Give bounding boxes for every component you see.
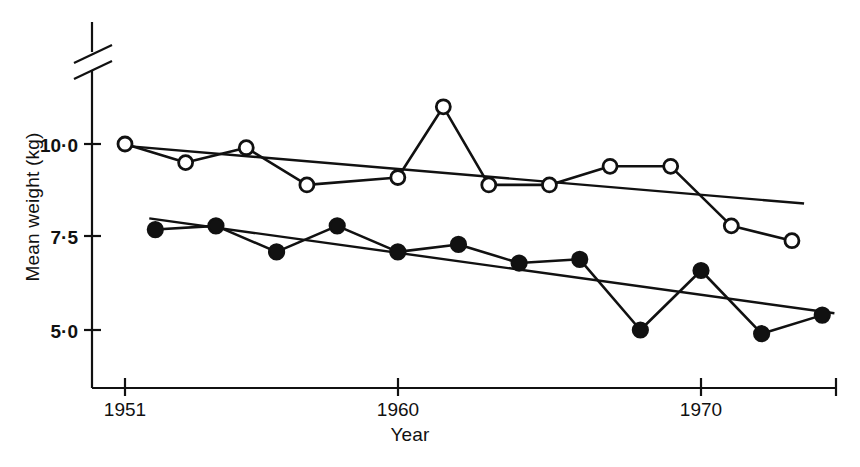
marker-open-circle [724, 219, 738, 233]
marker-filled-circle [572, 252, 587, 267]
y-tick-label-7-5: 7·5 [51, 227, 79, 248]
chart-figure: 10·0 7·5 5·0 1951 1960 1970 Mean weight … [0, 0, 860, 467]
marker-open-circle [482, 178, 496, 192]
marker-open-circle [785, 234, 799, 248]
x-tick-label-1960: 1960 [377, 399, 419, 420]
y-axis-title: Mean weight (kg) [22, 112, 44, 302]
x-axis-title: Year [350, 424, 470, 446]
marker-filled-circle [269, 244, 284, 259]
marker-filled-circle [330, 218, 345, 233]
marker-filled-circle [694, 263, 709, 278]
marker-open-circle [391, 170, 405, 184]
marker-open-circle [239, 141, 253, 155]
x-tick-label-1951: 1951 [104, 399, 146, 420]
marker-filled-circle [451, 237, 466, 252]
x-tick-label-1970: 1970 [680, 399, 722, 420]
marker-open-circle [436, 100, 450, 114]
y-tick-label-5: 5·0 [51, 321, 78, 342]
marker-filled-circle [633, 323, 648, 338]
plot-area: 10·0 7·5 5·0 1951 1960 1970 [0, 0, 860, 467]
marker-open-circle [118, 137, 132, 151]
marker-filled-circle [148, 222, 163, 237]
marker-open-circle [664, 159, 678, 173]
marker-filled-circle [754, 326, 769, 341]
series-filled-circles [148, 218, 835, 341]
marker-filled-circle [390, 244, 405, 259]
data-line-filled-circles [155, 226, 822, 334]
marker-filled-circle [512, 256, 527, 271]
marker-filled-circle [208, 218, 223, 233]
y-tick-label-10: 10·0 [40, 135, 78, 156]
marker-open-circle [542, 178, 556, 192]
marker-filled-circle [815, 308, 830, 323]
marker-open-circle [603, 159, 617, 173]
marker-open-circle [300, 178, 314, 192]
marker-open-circle [179, 156, 193, 170]
data-series-layer [118, 100, 834, 341]
trend-line-open-circles [125, 146, 804, 204]
